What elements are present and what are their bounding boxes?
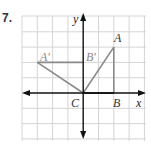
x-axis-label: x <box>135 96 142 110</box>
y-axis-up-arrow-icon <box>80 13 86 21</box>
point-label-A: A <box>113 31 122 45</box>
grid <box>22 16 146 141</box>
y-axis-down-arrow-icon <box>80 131 86 139</box>
point-label-B: B <box>113 96 121 110</box>
point-label-C: C <box>71 96 80 110</box>
point-label-A-prime: A′ <box>39 50 50 64</box>
axes <box>27 19 141 134</box>
y-axis-label: y <box>72 12 79 26</box>
x-axis-left-arrow-icon <box>22 90 30 96</box>
point-label-B-prime: B′ <box>86 50 96 64</box>
coordinate-graph: y x A B C A′ B′ <box>0 0 151 153</box>
